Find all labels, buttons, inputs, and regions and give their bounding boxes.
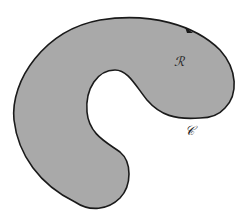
- region-label: ℛ: [174, 55, 184, 68]
- curve-label: 𝒞: [185, 124, 194, 137]
- region-R-shape: [14, 18, 235, 209]
- region-shape-svg: [0, 0, 245, 220]
